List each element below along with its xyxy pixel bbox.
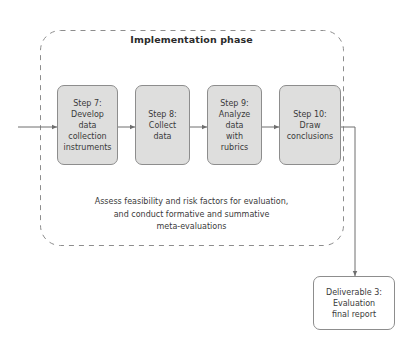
step-box-9[interactable]: Step 9: Analyze data with rubrics — [207, 85, 262, 165]
step-box-7[interactable]: Step 7: Develop data collection instrume… — [57, 85, 118, 165]
step-box-9-label: Step 9: Analyze data with rubrics — [217, 98, 253, 153]
step-box-10-label: Step 10: Draw conclusions — [285, 109, 336, 142]
step-box-8-label: Step 8: Collect data — [146, 109, 179, 142]
step-box-8[interactable]: Step 8: Collect data — [135, 85, 190, 165]
process-flow-diagram: Implementation phase Step 7: Develop dat… — [0, 0, 413, 341]
step-box-10[interactable]: Step 10: Draw conclusions — [279, 85, 341, 165]
deliverable-box[interactable]: Deliverable 3: Evaluation final report — [313, 276, 395, 330]
phase-note: Assess feasibility and risk factors for … — [40, 196, 343, 234]
deliverable-label: Deliverable 3: Evaluation final report — [326, 287, 382, 320]
step-box-7-label: Step 7: Develop data collection instrume… — [61, 98, 113, 153]
phase-title: Implementation phase — [40, 34, 343, 45]
